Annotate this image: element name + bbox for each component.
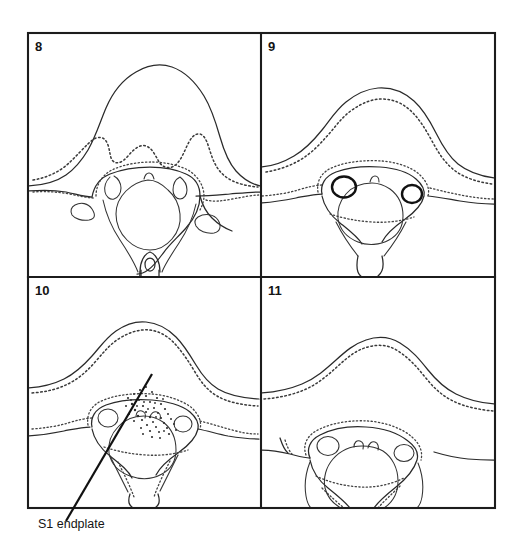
panel-10-lamina-dotted: [118, 462, 134, 497]
panel-9-cortex-dotted: [266, 99, 492, 184]
panel-8-neural-arch-right: [200, 196, 232, 231]
panel-11-body-outline: [262, 338, 494, 404]
panel-8-left-facet: [105, 176, 121, 199]
panel-9-arch-dotted: [318, 161, 429, 196]
panel-11-left-foramen: [317, 437, 339, 456]
panel-9-canal-crest: [370, 176, 379, 182]
anatomical-figure: S1 endplate 8 9 10 11: [0, 0, 518, 550]
panel-10: [29, 322, 259, 507]
panel-8-cortex-dotted: [33, 134, 258, 187]
panel-9-body-outline: [262, 88, 494, 178]
panel-8-spinous-stem-left: [139, 272, 140, 294]
panel-9-right-foramen-ring: [402, 185, 422, 203]
panel-11-arch-left-limb: [310, 460, 350, 508]
panel-number-8: 8: [35, 39, 42, 54]
panel-number-9: 9: [268, 39, 275, 54]
panel-8-right-island: [195, 215, 220, 234]
panel-11-arch-dotted-lower: [316, 476, 404, 487]
panel-10-stipple-region: [125, 386, 177, 439]
panel-8-right-lamina: [162, 204, 196, 272]
panel-8-left-dotted-edge: [33, 192, 94, 198]
panel-8-median-crest: [144, 173, 154, 179]
panel-9-left-foramen-ring: [332, 177, 356, 198]
panel-8-arch-dotted: [96, 162, 204, 210]
panel-8-left-island: [71, 203, 94, 220]
panel-10-arch-left-limb: [92, 429, 132, 478]
panel-9: [262, 88, 494, 279]
panel-11-neural-arch: [308, 427, 417, 508]
panel-10-arch-dotted: [88, 394, 201, 429]
panel-8: [29, 65, 260, 295]
s1-endplate-label: S1 endplate: [38, 517, 105, 531]
panel-8-spinal-canal: [116, 180, 180, 250]
panel-11-right-wing: [434, 452, 494, 460]
panel-grid-frame: [28, 33, 495, 508]
panel-8-right-dotted-edge: [206, 195, 259, 201]
panel-8-right-facet: [173, 177, 187, 199]
figure-root: S1 endplate 8 9 10 11: [0, 0, 518, 550]
panel-10-left-wing: [29, 427, 90, 436]
s1-endplate-leader-line: [66, 374, 152, 521]
panel-number-10: 10: [35, 283, 49, 298]
panel-9-spinal-canal: [338, 183, 403, 244]
panel-9-spinous-process: [357, 256, 383, 278]
panel-9-right-wing: [428, 196, 494, 204]
panel-8-left-lamina: [103, 200, 138, 272]
panel-11-spinal-canal: [324, 446, 398, 514]
panel-11-left-recess: [305, 462, 311, 508]
panel-number-11: 11: [268, 283, 282, 298]
panel-11: [262, 338, 494, 514]
panel-10-neural-arch: [92, 400, 199, 475]
panel-8-neural-arch: [92, 167, 200, 274]
panel-11-canal-crest-left: [354, 441, 363, 449]
panel-10-cortex-dotted: [32, 330, 258, 406]
panel-11-right-recess: [417, 463, 423, 508]
panel-9-left-lamina: [336, 222, 358, 256]
panel-11-cortex-dotted: [264, 345, 493, 411]
panel-10-left-foramen: [98, 409, 118, 427]
panel-9-arch-dotted-lower: [330, 214, 414, 222]
panel-11-right-foramen: [394, 445, 414, 462]
